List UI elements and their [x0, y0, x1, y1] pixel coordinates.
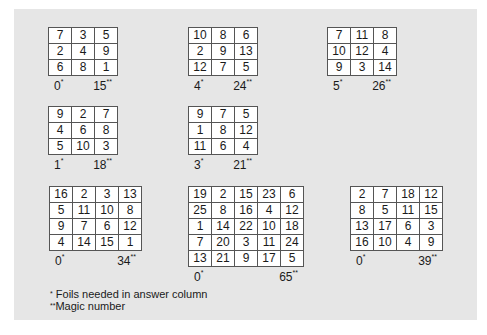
grid-row: 13219175: [189, 251, 304, 267]
magic-square-6: 162313511108976124141510*34**: [49, 186, 142, 268]
grid-row: 72031124: [189, 235, 304, 251]
grid-cell: 5: [235, 60, 258, 76]
grid-cell: 8: [212, 203, 235, 219]
grid-cell: 18: [281, 219, 304, 235]
grid-cell: 7: [189, 235, 212, 251]
grid-cell: 7: [212, 60, 235, 76]
magic-square-5: 975181211643*21**: [188, 106, 258, 172]
grid-cell: 24: [281, 235, 304, 251]
magic-square-8: 2718128511151317631610490*39**: [350, 186, 443, 268]
grid-cell: 12: [281, 203, 304, 219]
grid-cell: 10: [72, 139, 95, 155]
grid-cell: 2: [72, 107, 95, 123]
grid-cell: 10: [374, 235, 397, 251]
grid-cell: 7: [73, 219, 96, 235]
grid-cell: 4: [50, 235, 73, 251]
grid-cell: 8: [374, 28, 397, 44]
grid-cell: 9: [50, 219, 73, 235]
grid-cell: 19: [189, 187, 212, 203]
square-labels: 0*34**: [49, 254, 142, 268]
legend-foils: * Foils needed in answer column: [50, 288, 207, 300]
grid-cell: 1: [189, 219, 212, 235]
foils-label: 1*: [54, 158, 63, 172]
grid-row: 1086: [189, 28, 258, 44]
grid-cell: 5: [50, 203, 73, 219]
grid-cell: 5: [281, 251, 304, 267]
square-labels: 4*24**: [188, 79, 258, 93]
grid-row: 271812: [351, 187, 443, 203]
grid-cell: 17: [258, 251, 281, 267]
grid-cell: 8: [212, 28, 235, 44]
legend: * Foils needed in answer column **Magic …: [50, 288, 207, 312]
grid-cell: 6: [235, 28, 258, 44]
foils-label: 0*: [54, 79, 63, 93]
grid-cell: 3: [96, 187, 119, 203]
grid-cell: 7: [49, 28, 72, 44]
grid-cell: 6: [397, 219, 420, 235]
grid-row: 97612: [50, 219, 142, 235]
magic-square-grid: 9274685103: [48, 106, 118, 155]
grid-cell: 8: [351, 203, 374, 219]
grid-cell: 9: [49, 107, 72, 123]
grid-cell: 8: [95, 123, 118, 139]
grid-cell: 2: [49, 44, 72, 60]
grid-cell: 9: [420, 235, 443, 251]
magic-number-label: 34**: [117, 254, 136, 268]
grid-row: 249: [49, 44, 118, 60]
grid-cell: 7: [212, 107, 235, 123]
grid-cell: 13: [351, 219, 374, 235]
grid-row: 162313: [50, 187, 142, 203]
grid-cell: 13: [189, 251, 212, 267]
grid-cell: 4: [397, 235, 420, 251]
foils-label: 0*: [55, 254, 64, 268]
grid-cell: 23: [258, 187, 281, 203]
grid-cell: 14: [212, 219, 235, 235]
square-labels: 0*15**: [48, 79, 118, 93]
magic-square-2: 1086291312754*24**: [188, 27, 258, 93]
grid-row: 927: [49, 107, 118, 123]
grid-cell: 8: [212, 123, 235, 139]
grid-cell: 2: [189, 44, 212, 60]
magic-number-label: 24**: [233, 79, 252, 93]
foils-label: 4*: [194, 79, 203, 93]
grid-cell: 15: [96, 235, 119, 251]
magic-number-label: 65**: [279, 270, 298, 284]
grid-cell: 13: [119, 187, 142, 203]
grid-cell: 10: [189, 28, 212, 44]
magic-square-4: 92746851031*18**: [48, 106, 118, 172]
grid-cell: 15: [235, 187, 258, 203]
grid-cell: 6: [281, 187, 304, 203]
grid-cell: 6: [49, 60, 72, 76]
grid-cell: 7: [374, 187, 397, 203]
grid-cell: 16: [351, 235, 374, 251]
grid-cell: 7: [95, 107, 118, 123]
grid-cell: 16: [50, 187, 73, 203]
magic-number-label: 18**: [93, 158, 112, 172]
foils-label: 0*: [194, 270, 203, 284]
magic-square-grid: 1921523625816412114221018720311241321917…: [188, 186, 304, 267]
grid-row: 9314: [328, 60, 397, 76]
grid-row: 10124: [328, 44, 397, 60]
magic-number-label: 21**: [233, 158, 252, 172]
grid-cell: 3: [95, 139, 118, 155]
grid-cell: 25: [189, 203, 212, 219]
grid-cell: 6: [72, 123, 95, 139]
grid-cell: 9: [235, 251, 258, 267]
grid-cell: 11: [73, 203, 96, 219]
grid-cell: 4: [258, 203, 281, 219]
grid-cell: 11: [351, 28, 374, 44]
grid-cell: 3: [351, 60, 374, 76]
grid-cell: 10: [96, 203, 119, 219]
grid-cell: 14: [374, 60, 397, 76]
grid-cell: 13: [235, 44, 258, 60]
square-labels: 1*18**: [48, 158, 118, 172]
grid-row: 7118: [328, 28, 397, 44]
grid-cell: 3: [72, 28, 95, 44]
grid-cell: 3: [235, 235, 258, 251]
grid-row: 5103: [49, 139, 118, 155]
grid-cell: 12: [420, 187, 443, 203]
grid-cell: 4: [72, 44, 95, 60]
grid-cell: 15: [420, 203, 443, 219]
grid-row: 19215236: [189, 187, 304, 203]
grid-cell: 3: [420, 219, 443, 235]
